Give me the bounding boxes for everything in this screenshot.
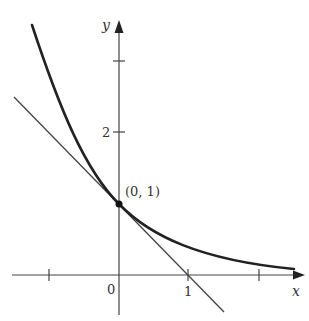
- graph-canvas: (0, 1) y x 2 0 1: [0, 0, 309, 321]
- y-tick-label-2: 2: [102, 125, 110, 140]
- x-tick-label-0: 0: [107, 282, 115, 297]
- y-axis: [113, 20, 125, 315]
- y-axis-arrow-icon: [115, 20, 124, 33]
- x-axis-arrow-icon: [293, 271, 305, 280]
- x-axis-label: x: [292, 283, 300, 299]
- point-label: (0, 1): [125, 184, 160, 199]
- x-axis: [12, 269, 305, 281]
- tangent-point: [116, 201, 123, 208]
- exponential-curve: [32, 25, 294, 269]
- y-axis-label: y: [101, 17, 111, 33]
- x-tick-label-1: 1: [184, 284, 192, 299]
